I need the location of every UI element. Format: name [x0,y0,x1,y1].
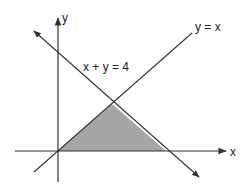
label-y-equals-x: y = x [195,20,221,34]
x-axis-label: x [230,145,236,159]
shaded-region [58,104,166,151]
label-x-plus-y-equals-4: x + y = 4 [83,60,129,74]
y-axis-label: y [62,11,68,25]
line-x-plus-y-equals-4 [34,31,199,177]
diagram-canvas: y x y = x x + y = 4 [0,0,247,194]
